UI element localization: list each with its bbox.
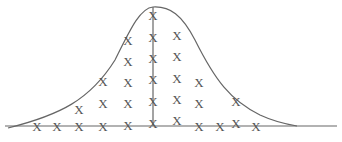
x-marker: X xyxy=(148,72,158,87)
data-markers: XXXXXXXXXXXXXXXXXXXXXXXXXXXXXX xyxy=(32,8,261,134)
x-marker: X xyxy=(215,119,225,134)
x-marker: X xyxy=(148,94,158,109)
x-marker: X xyxy=(148,30,158,45)
x-marker: X xyxy=(123,96,133,111)
x-marker: X xyxy=(123,33,133,48)
x-marker: X xyxy=(194,119,204,134)
x-marker: X xyxy=(123,118,133,133)
x-marker: X xyxy=(123,75,133,90)
x-marker: X xyxy=(74,119,84,134)
x-marker: X xyxy=(123,54,133,69)
x-marker: X xyxy=(74,102,84,117)
x-marker: X xyxy=(52,119,62,134)
x-marker: X xyxy=(194,75,204,90)
x-marker: X xyxy=(98,119,108,134)
x-marker: X xyxy=(172,92,182,107)
x-marker: X xyxy=(148,8,158,23)
normal-distribution-dotplot: XXXXXXXXXXXXXXXXXXXXXXXXXXXXXX xyxy=(0,0,342,142)
x-marker: X xyxy=(231,94,241,109)
x-marker: X xyxy=(251,119,261,134)
x-marker: X xyxy=(148,116,158,131)
x-marker: X xyxy=(194,96,204,111)
x-marker: X xyxy=(98,74,108,89)
x-marker: X xyxy=(172,49,182,64)
x-marker: X xyxy=(148,51,158,66)
x-marker: X xyxy=(98,96,108,111)
x-marker: X xyxy=(172,71,182,86)
x-marker: X xyxy=(172,113,182,128)
x-marker: X xyxy=(172,28,182,43)
x-marker: X xyxy=(231,116,241,131)
x-marker: X xyxy=(32,119,42,134)
